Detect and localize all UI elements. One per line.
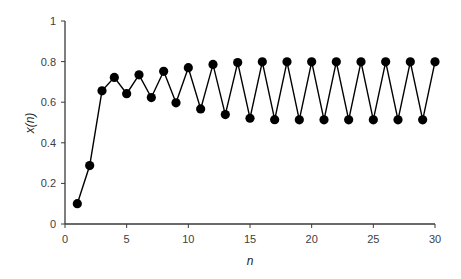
data-point xyxy=(110,73,119,82)
data-point xyxy=(159,67,168,76)
y-tick-label: 0 xyxy=(50,218,56,230)
y-tick-label: 0.6 xyxy=(41,96,56,108)
x-tick-label: 10 xyxy=(182,233,194,245)
x-tick-label: 25 xyxy=(367,233,379,245)
data-point xyxy=(319,115,328,124)
data-point xyxy=(258,57,267,66)
data-point xyxy=(196,104,205,113)
y-tick-label: 1 xyxy=(50,15,56,27)
data-point xyxy=(356,57,365,66)
y-axis-title: x(n) xyxy=(23,113,37,135)
y-tick-label: 0.8 xyxy=(41,56,56,68)
data-point xyxy=(208,60,217,69)
x-tick-label: 5 xyxy=(124,233,130,245)
y-axis: 00.20.40.60.81 xyxy=(41,15,65,230)
data-point xyxy=(344,115,353,124)
data-point xyxy=(221,110,230,119)
data-point xyxy=(430,57,439,66)
data-point xyxy=(97,86,106,95)
chart: 00.20.40.60.81 051015202530 n x(n) xyxy=(0,0,461,279)
data-point xyxy=(134,70,143,79)
data-point xyxy=(307,57,316,66)
data-point xyxy=(85,161,94,170)
data-point xyxy=(332,57,341,66)
plot-area xyxy=(73,57,440,208)
data-point xyxy=(270,115,279,124)
data-point xyxy=(282,57,291,66)
data-point xyxy=(184,63,193,72)
data-point xyxy=(418,115,427,124)
x-tick-label: 30 xyxy=(429,233,441,245)
data-point xyxy=(73,199,82,208)
data-point xyxy=(233,58,242,67)
series-line xyxy=(77,62,435,204)
x-tick-label: 0 xyxy=(62,233,68,245)
data-point xyxy=(406,57,415,66)
x-axis-title: n xyxy=(247,254,254,268)
data-point xyxy=(393,115,402,124)
data-point xyxy=(147,93,156,102)
data-point xyxy=(295,115,304,124)
data-point xyxy=(122,89,131,98)
x-tick-label: 20 xyxy=(306,233,318,245)
x-tick-label: 15 xyxy=(244,233,256,245)
data-point xyxy=(381,57,390,66)
data-point xyxy=(171,98,180,107)
x-axis: 051015202530 xyxy=(62,224,441,245)
y-tick-label: 0.4 xyxy=(41,137,56,149)
data-point xyxy=(245,114,254,123)
data-point xyxy=(369,115,378,124)
y-tick-label: 0.2 xyxy=(41,177,56,189)
